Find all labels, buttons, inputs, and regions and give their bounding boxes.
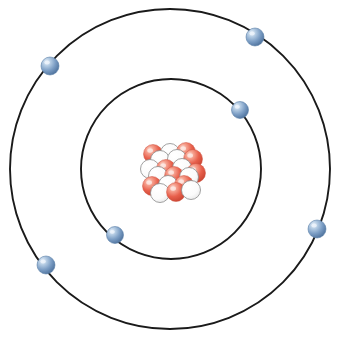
electron-highlight xyxy=(110,230,115,234)
electron-outer-lower-left xyxy=(37,256,55,274)
nucleus-group xyxy=(141,143,206,203)
electron-outer-upper-left xyxy=(41,57,59,75)
particle-highlight xyxy=(185,184,191,188)
particle-highlight xyxy=(162,179,168,183)
atom-canvas xyxy=(0,0,340,338)
particle-highlight xyxy=(168,170,174,174)
particle-highlight xyxy=(183,171,189,175)
particle-highlight xyxy=(152,170,158,174)
particle-highlight xyxy=(164,147,170,151)
neutron-particle xyxy=(182,181,201,200)
particle-highlight xyxy=(146,180,152,184)
electron-highlight xyxy=(44,61,49,65)
particle-highlight xyxy=(154,154,160,158)
particle-highlight xyxy=(170,186,176,190)
particle-highlight xyxy=(176,162,182,166)
atom-diagram xyxy=(0,0,340,338)
electron-outer-right xyxy=(308,220,326,238)
particle-highlight xyxy=(147,148,153,152)
particle-highlight xyxy=(171,153,177,157)
electron-inner-lower-left xyxy=(107,227,124,244)
electron-highlight xyxy=(249,32,254,36)
particle-highlight xyxy=(187,153,193,157)
electron-outer-upper-right xyxy=(246,28,264,46)
particle-highlight xyxy=(154,187,160,191)
electron-inner-right xyxy=(232,102,249,119)
electron-highlight xyxy=(235,105,240,109)
electron-highlight xyxy=(311,224,316,228)
particle-highlight xyxy=(144,163,150,167)
electron-highlight xyxy=(40,260,45,264)
